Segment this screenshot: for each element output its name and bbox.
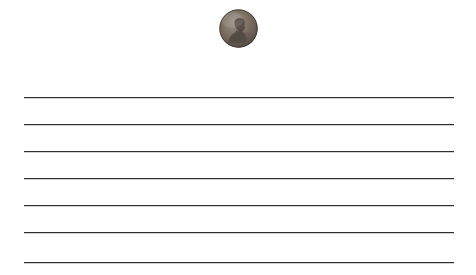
- penny-coin-icon: [219, 9, 258, 48]
- ruled-line-5: [24, 205, 454, 206]
- ruled-line-2: [24, 124, 454, 125]
- ruled-line-4: [24, 178, 454, 179]
- ruled-line-1: [24, 97, 454, 98]
- ruled-line-6: [24, 232, 454, 233]
- penny-coin: [219, 9, 258, 48]
- ruled-line-7: [24, 262, 454, 263]
- notebook-page-scene: [0, 0, 476, 275]
- ruled-line-3: [24, 151, 454, 152]
